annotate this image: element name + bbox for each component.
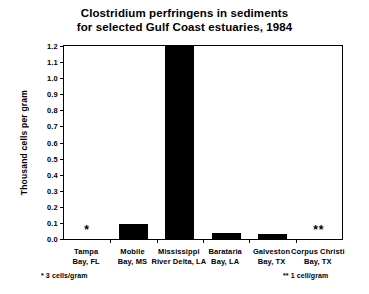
x-axis-category-label: GalvestonBay, TX xyxy=(253,247,290,266)
x-axis-tick xyxy=(249,239,250,243)
x-axis-category-line: River Delta, LA xyxy=(151,257,206,267)
y-axis-tick xyxy=(60,191,64,192)
x-axis-category-line: Bay, FL xyxy=(73,257,100,267)
y-axis-tick xyxy=(60,110,64,111)
x-axis-category-line: Bay, MS xyxy=(118,257,147,267)
x-axis-category-line: Mississippi xyxy=(151,247,206,257)
x-axis-category-label: TampaBay, FL xyxy=(73,247,100,266)
footnote-left: * 3 cells/gram xyxy=(41,272,88,279)
y-axis-tick xyxy=(60,46,64,47)
x-axis-category-label: MobileBay, MS xyxy=(118,247,147,266)
y-axis-tick-label: 1.2 xyxy=(47,42,58,51)
y-axis-tick-label: 1.1 xyxy=(47,58,58,67)
bar xyxy=(165,46,194,239)
bar xyxy=(119,224,148,239)
y-axis-tick xyxy=(60,223,64,224)
y-axis-title: Thousand cells per gram xyxy=(17,58,31,228)
x-axis-category-line: Tampa xyxy=(73,247,100,257)
y-axis-tick xyxy=(60,239,64,240)
y-axis-tick xyxy=(60,207,64,208)
y-axis-tick-label: 0.3 xyxy=(47,186,58,195)
x-axis-category-line: Bay, TX xyxy=(291,257,345,267)
x-axis-category-line: Bay, TX xyxy=(253,257,290,267)
x-axis-tick xyxy=(296,239,297,243)
x-axis-category-line: Barataria xyxy=(208,247,241,257)
chart-container: Clostridium perfringens in sediments for… xyxy=(0,0,369,294)
x-axis-category-label: Corpus ChristiBay, TX xyxy=(291,247,345,266)
y-axis-tick xyxy=(60,78,64,79)
y-axis-tick xyxy=(60,62,64,63)
x-axis-tick xyxy=(110,239,111,243)
plot-area: 1.21.11.00.90.80.70.60.50.40.30.20.10.0*… xyxy=(63,45,343,240)
y-axis-tick xyxy=(60,175,64,176)
x-axis-category-line: Mobile xyxy=(118,247,147,257)
bar xyxy=(212,233,241,239)
plot-inner: 1.21.11.00.90.80.70.60.50.40.30.20.10.0*… xyxy=(64,46,342,239)
x-axis-labels: TampaBay, FLMobileBay, MSMississippiRive… xyxy=(63,247,343,271)
bar-value-marker: * xyxy=(84,227,90,233)
x-axis-category-line: Bay, LA xyxy=(208,257,241,267)
x-axis-category-label: MississippiRiver Delta, LA xyxy=(151,247,206,266)
bar xyxy=(258,234,287,239)
x-axis-category-label: BaratariaBay, LA xyxy=(208,247,241,266)
y-axis-tick-label: 0.9 xyxy=(47,90,58,99)
y-axis-tick-label: 0.6 xyxy=(47,138,58,147)
y-axis-tick-label: 0.1 xyxy=(47,218,58,227)
y-axis-tick-label: 0.7 xyxy=(47,122,58,131)
footnote-right: ** 1 cell/gram xyxy=(283,272,328,279)
y-axis-tick xyxy=(60,126,64,127)
y-axis-tick xyxy=(60,143,64,144)
chart-title-line-1: Clostridium perfringens in sediments xyxy=(0,6,369,20)
y-axis-tick-label: 0.4 xyxy=(47,170,58,179)
x-axis-category-line: Galveston xyxy=(253,247,290,257)
y-axis-tick-label: 0.2 xyxy=(47,202,58,211)
y-axis-tick-label: 1.0 xyxy=(47,74,58,83)
x-axis-tick xyxy=(157,239,158,243)
y-axis-tick xyxy=(60,94,64,95)
chart-title: Clostridium perfringens in sediments for… xyxy=(0,6,369,34)
x-axis-category-line: Corpus Christi xyxy=(291,247,345,257)
y-axis-tick-label: 0.0 xyxy=(47,235,58,244)
x-axis-tick xyxy=(203,239,204,243)
bar-value-marker: ** xyxy=(313,227,324,233)
y-axis-tick-label: 0.5 xyxy=(47,154,58,163)
chart-title-line-2: for selected Gulf Coast estuaries, 1984 xyxy=(0,20,369,34)
y-axis-tick xyxy=(60,159,64,160)
y-axis-tick-label: 0.8 xyxy=(47,106,58,115)
y-axis-title-text: Thousand cells per gram xyxy=(19,90,29,195)
